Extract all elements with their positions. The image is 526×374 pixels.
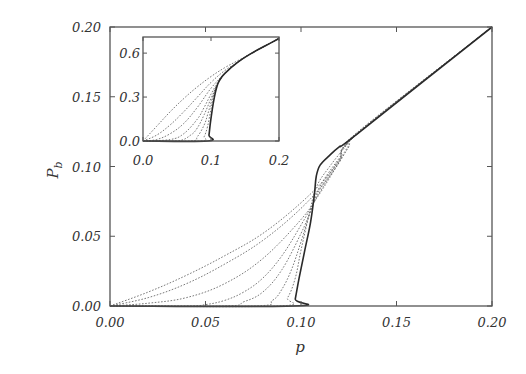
main-y-tick-label: 0.15 [72, 90, 101, 105]
inset-x-tick-label: 0.0 [133, 153, 154, 168]
y-axis-label: Pb [44, 161, 65, 179]
inset-background [143, 37, 279, 141]
main-x-tick-label: 0.00 [96, 315, 125, 330]
main-x-tick-label: 0.10 [287, 315, 316, 330]
inset-y-tick-label: 0.6 [119, 46, 140, 61]
chart-svg: 0.000.050.100.150.200.000.050.100.150.20… [0, 0, 526, 374]
main-x-tick-label: 0.15 [382, 315, 411, 330]
main-x-tick-label: 0.05 [191, 315, 220, 330]
main-y-tick-label: 0.00 [72, 299, 101, 314]
inset-y-tick-label: 0.3 [119, 90, 140, 105]
x-axis-label: p [295, 338, 305, 356]
inset-y-tick-label: 0.0 [119, 134, 140, 149]
main-x-tick-label: 0.20 [478, 315, 507, 330]
y-axis-label-subscript: b [52, 161, 65, 168]
chart-container: 0.000.050.100.150.200.000.050.100.150.20… [0, 0, 526, 374]
svg-text:Pb: Pb [44, 161, 65, 179]
inset-x-tick-label: 0.1 [201, 153, 222, 168]
axis-labels: p Pb [44, 161, 305, 356]
main-y-tick-label: 0.10 [72, 160, 101, 175]
inset-x-tick-label: 0.2 [269, 153, 290, 168]
main-y-tick-label: 0.05 [72, 229, 101, 244]
main-y-tick-label: 0.20 [72, 20, 101, 35]
